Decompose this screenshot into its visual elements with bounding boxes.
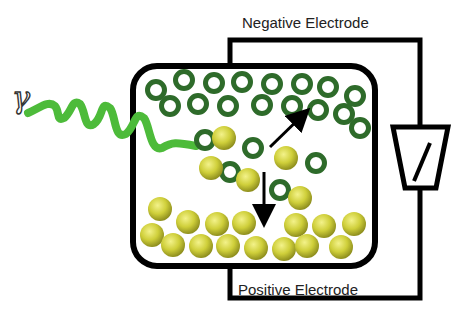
ion-ball [148, 197, 172, 221]
ion-ball [216, 234, 240, 258]
ion-ball [244, 236, 268, 260]
electron-ring [206, 75, 223, 92]
electron-ring [148, 82, 165, 99]
ion-ball [288, 186, 312, 210]
negative-electrode-label: Negative Electrode [242, 14, 369, 31]
electron-ring [197, 132, 214, 149]
ion-ball [295, 234, 319, 258]
electron-ring [220, 98, 237, 115]
ion-ball [342, 212, 366, 236]
ion-ball [199, 156, 223, 180]
electron-ring [336, 106, 353, 123]
ion-ball [272, 237, 296, 261]
electron-ring [190, 96, 207, 113]
electron-ring [264, 76, 281, 93]
gamma-symbol: γ [12, 80, 30, 115]
ion-ball [232, 211, 256, 235]
electron-ring [284, 98, 301, 115]
electron-ring [245, 140, 262, 157]
ion-ball [236, 168, 260, 192]
electron-ring [254, 97, 271, 114]
electron-ring [272, 182, 289, 199]
electron-ring [352, 120, 369, 137]
electron-ring [222, 164, 239, 181]
ion-ball [140, 223, 164, 247]
electron-ring [234, 74, 251, 91]
ion-ball [212, 126, 236, 150]
ion-ball [205, 212, 229, 236]
ion-ball [161, 233, 185, 257]
ion-ball [329, 235, 353, 259]
electron-ring [310, 102, 327, 119]
electron-ring [347, 88, 364, 105]
ion-ball [312, 214, 336, 238]
ion-ball [189, 234, 213, 258]
ion-ball [284, 213, 308, 237]
electron-ring [294, 76, 311, 93]
ion-ball [176, 210, 200, 234]
ionization-chamber-diagram [0, 0, 467, 315]
ion-ball [274, 146, 298, 170]
electron-ring [176, 72, 193, 89]
positive-electrode-label: Positive Electrode [238, 281, 358, 298]
electron-ring [320, 79, 337, 96]
electron-ring [162, 98, 179, 115]
electron-ring [308, 155, 325, 172]
meter-icon [393, 127, 448, 188]
